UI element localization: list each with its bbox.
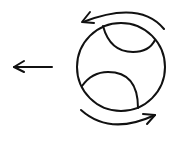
spinning-ball-diagram	[0, 0, 178, 143]
ball	[77, 23, 165, 111]
ball-seam-top	[103, 26, 155, 52]
rotation-arrow-bottom-icon	[81, 110, 155, 124]
motion-arrow-left-icon	[14, 61, 52, 72]
rotation-arrow-top-icon	[82, 12, 164, 29]
ball-seam-bottom	[82, 72, 138, 108]
